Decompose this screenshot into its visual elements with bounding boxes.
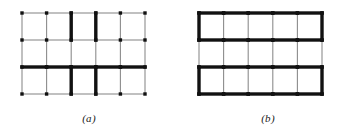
lattice-node bbox=[271, 65, 274, 68]
lattice-node bbox=[320, 38, 323, 41]
lattice-node bbox=[197, 38, 200, 41]
lattice-diagram-b bbox=[179, 0, 357, 110]
lattice-node bbox=[45, 11, 48, 14]
thin-grid-layer bbox=[199, 13, 322, 94]
lattice-node bbox=[296, 38, 299, 41]
lattice-node bbox=[70, 92, 73, 95]
lattice-node bbox=[222, 38, 225, 41]
lattice-node bbox=[94, 92, 97, 95]
lattice-node bbox=[143, 11, 146, 14]
lattice-node bbox=[94, 65, 97, 68]
lattice-node bbox=[320, 92, 323, 95]
lattice-node bbox=[247, 11, 250, 14]
lattice-node bbox=[222, 65, 225, 68]
lattice-node bbox=[247, 92, 250, 95]
lattice-panel-a: (a) bbox=[0, 0, 178, 135]
node-layer bbox=[197, 11, 323, 95]
lattice-node bbox=[222, 92, 225, 95]
lattice-node bbox=[94, 38, 97, 41]
figure-root: (a) (b) bbox=[0, 0, 357, 135]
lattice-node bbox=[222, 11, 225, 14]
lattice-node bbox=[45, 92, 48, 95]
lattice-node bbox=[197, 11, 200, 14]
lattice-node bbox=[70, 38, 73, 41]
lattice-node bbox=[20, 11, 23, 14]
lattice-node bbox=[271, 38, 274, 41]
lattice-node bbox=[143, 92, 146, 95]
bold-edge-layer bbox=[22, 13, 145, 94]
lattice-node bbox=[45, 38, 48, 41]
panel-caption-a: (a) bbox=[0, 112, 178, 124]
thin-grid-layer bbox=[22, 13, 145, 94]
lattice-node bbox=[70, 65, 73, 68]
lattice-node bbox=[271, 92, 274, 95]
lattice-node bbox=[119, 11, 122, 14]
lattice-node bbox=[94, 11, 97, 14]
lattice-node bbox=[70, 11, 73, 14]
lattice-node bbox=[20, 92, 23, 95]
lattice-node bbox=[20, 38, 23, 41]
lattice-diagram-a bbox=[0, 0, 178, 110]
lattice-node bbox=[197, 92, 200, 95]
lattice-node bbox=[247, 38, 250, 41]
lattice-node bbox=[247, 65, 250, 68]
lattice-node bbox=[119, 92, 122, 95]
lattice-node bbox=[45, 65, 48, 68]
lattice-node bbox=[119, 38, 122, 41]
lattice-node bbox=[296, 65, 299, 68]
lattice-node bbox=[20, 65, 23, 68]
node-layer bbox=[20, 11, 146, 95]
lattice-panel-b: (b) bbox=[179, 0, 357, 135]
lattice-node bbox=[197, 65, 200, 68]
lattice-node bbox=[143, 65, 146, 68]
lattice-node bbox=[296, 92, 299, 95]
lattice-node bbox=[143, 38, 146, 41]
lattice-node bbox=[320, 65, 323, 68]
lattice-node bbox=[296, 11, 299, 14]
lattice-node bbox=[320, 11, 323, 14]
bold-edge-layer bbox=[199, 13, 322, 94]
lattice-node bbox=[119, 65, 122, 68]
lattice-node bbox=[271, 11, 274, 14]
panel-caption-b: (b) bbox=[179, 112, 357, 124]
